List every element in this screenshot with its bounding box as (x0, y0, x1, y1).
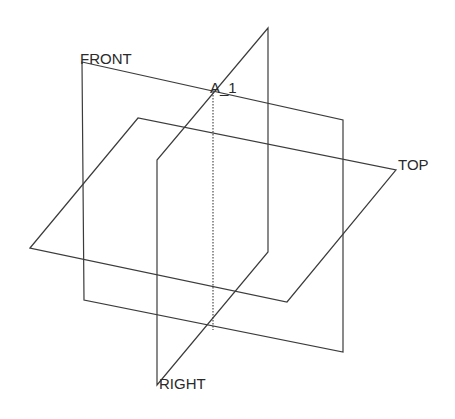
front-plane-label[interactable]: FRONT (80, 51, 132, 66)
axis-a1-label[interactable]: A_1 (210, 80, 237, 95)
datum-plane-canvas (0, 0, 455, 419)
right-plane-label[interactable]: RIGHT (159, 376, 206, 391)
top-plane-label[interactable]: TOP (398, 157, 429, 172)
